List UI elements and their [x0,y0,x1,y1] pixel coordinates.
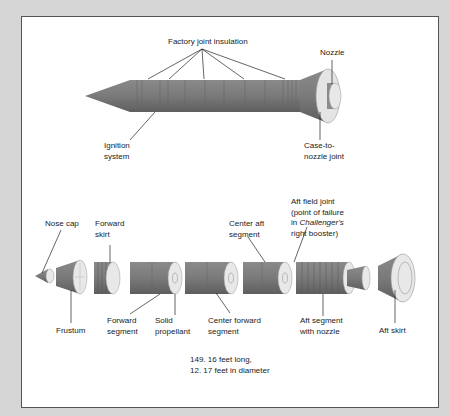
exploded-booster [35,254,415,302]
label-nozzle: Nozzle [320,48,344,59]
label-forward-segment: Forward segment [107,316,138,337]
rocket-illustration [0,0,450,416]
label-aft-field-joint: Aft field joint (point of failure in Cha… [291,197,344,239]
aft-segment-with-nozzle [296,262,348,294]
label-forward-skirt: Forward skirt [95,219,124,240]
label-center-aft-segment: Center aft segment [229,219,264,240]
label-solid-propellant: Solid propellant [155,316,190,337]
label-factory-joint-insulation: Factory joint insulation [168,37,248,48]
label-aft-segment-with-nozzle: Aft segment with nozzle [300,316,343,337]
label-frustum: Frustum [56,326,85,337]
assembled-booster [85,69,341,123]
dimensions-caption: 149. 16 feet long, 12. 17 feet in diamet… [190,355,270,376]
label-nose-cap: Nose cap [45,219,79,230]
label-aft-skirt: Aft skirt [379,326,406,337]
label-case-to-nozzle-joint: Case-to- nozzle joint [304,141,344,162]
label-center-forward-segment: Center forward segment [208,316,261,337]
label-ignition-system: Ignition system [104,141,130,162]
